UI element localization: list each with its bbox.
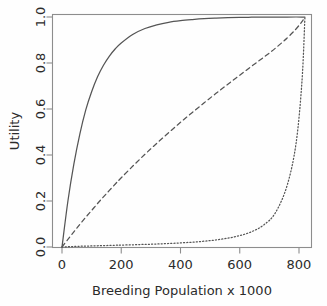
y-axis-title: Utility bbox=[7, 112, 22, 151]
data-series-group bbox=[62, 17, 305, 247]
plot-frame-box bbox=[53, 15, 312, 248]
x-axis-tick-labels: 0200400600800 bbox=[58, 257, 312, 272]
y-tick-label: 0.8 bbox=[33, 53, 48, 74]
x-axis-ticks bbox=[62, 248, 299, 254]
y-tick-label: 0.2 bbox=[33, 191, 48, 212]
x-tick-label: 200 bbox=[109, 257, 134, 272]
utility-curves-plot: 0200400600800 0.00.20.40.60.81.0 Breedin… bbox=[0, 0, 327, 306]
x-axis-title: Breeding Population x 1000 bbox=[92, 283, 272, 298]
series-linear-ish-utility bbox=[62, 17, 305, 247]
x-tick-label: 600 bbox=[227, 257, 252, 272]
x-tick-label: 0 bbox=[58, 257, 66, 272]
y-tick-label: 0.4 bbox=[33, 145, 48, 166]
series-convex-utility bbox=[62, 17, 305, 247]
y-tick-label: 0.6 bbox=[33, 99, 48, 120]
y-axis-tick-labels: 0.00.20.40.60.81.0 bbox=[33, 7, 48, 258]
y-tick-label: 1.0 bbox=[33, 7, 48, 28]
y-tick-label: 0.0 bbox=[33, 237, 48, 258]
series-concave-utility bbox=[62, 17, 305, 247]
chart-figure: 0200400600800 0.00.20.40.60.81.0 Breedin… bbox=[0, 0, 327, 306]
y-axis-ticks bbox=[47, 17, 53, 247]
x-tick-label: 400 bbox=[168, 257, 193, 272]
x-tick-label: 800 bbox=[287, 257, 312, 272]
